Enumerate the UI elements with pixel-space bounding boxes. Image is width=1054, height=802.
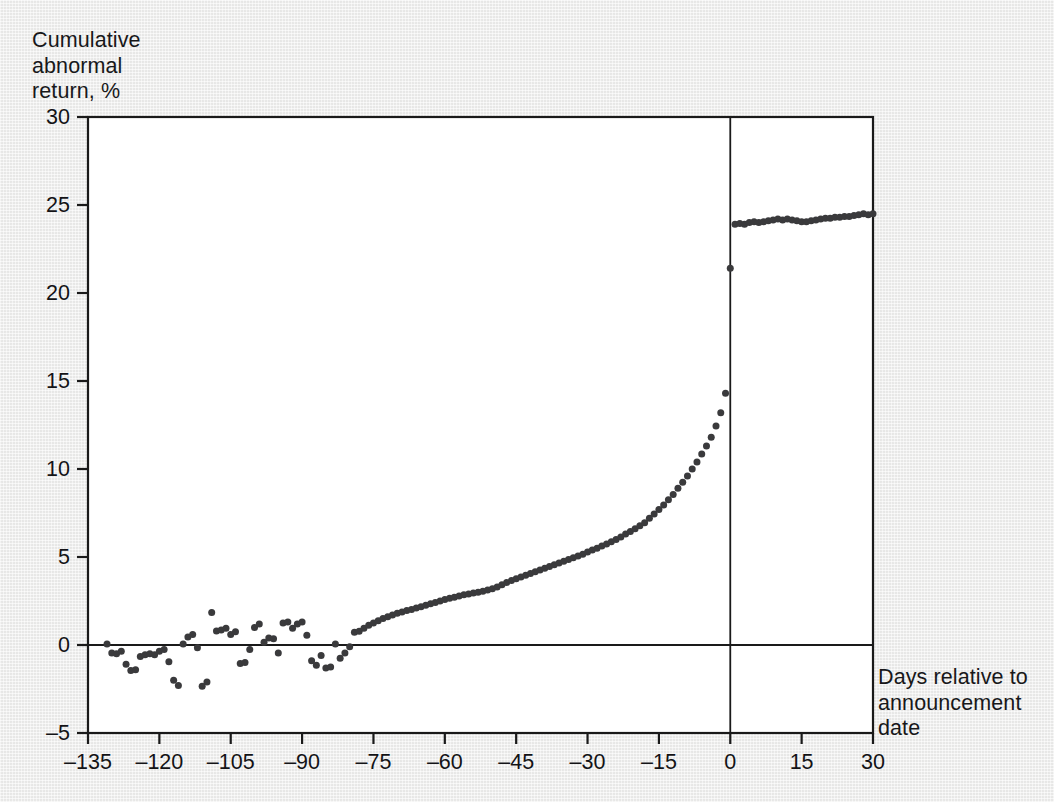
y-axis-title: Cumulative abnormal return, % bbox=[32, 28, 141, 105]
x-tick-label: 15 bbox=[790, 751, 814, 773]
data-point bbox=[180, 641, 187, 648]
data-point bbox=[170, 677, 177, 684]
data-point bbox=[674, 485, 681, 492]
data-point bbox=[708, 434, 715, 441]
y-tick-label: 30 bbox=[46, 106, 70, 128]
data-point bbox=[246, 646, 253, 653]
data-point bbox=[870, 210, 877, 217]
y-tick-label: –5 bbox=[46, 722, 70, 744]
data-point bbox=[332, 641, 339, 648]
data-point bbox=[713, 422, 720, 429]
data-point bbox=[270, 635, 277, 642]
data-point bbox=[165, 658, 172, 665]
x-tick-label: –120 bbox=[135, 751, 183, 773]
data-point bbox=[275, 649, 282, 656]
x-tick-label: –90 bbox=[284, 751, 320, 773]
x-tick-label: –60 bbox=[427, 751, 463, 773]
data-point bbox=[703, 443, 710, 450]
y-tick-label: 5 bbox=[58, 546, 70, 568]
data-point bbox=[327, 664, 334, 671]
y-tick-label: 25 bbox=[46, 194, 70, 216]
y-tick-label: 10 bbox=[46, 458, 70, 480]
x-tick-label: –75 bbox=[356, 751, 392, 773]
data-point bbox=[684, 473, 691, 480]
data-point bbox=[346, 643, 353, 650]
data-point bbox=[208, 609, 215, 616]
x-tick-label: 0 bbox=[724, 751, 736, 773]
data-point bbox=[689, 466, 696, 473]
data-point bbox=[722, 390, 729, 397]
x-tick-label: –30 bbox=[570, 751, 606, 773]
data-point bbox=[161, 646, 168, 653]
data-point bbox=[256, 620, 263, 627]
y-tick-label: 15 bbox=[46, 370, 70, 392]
data-point bbox=[118, 648, 125, 655]
data-point bbox=[194, 644, 201, 651]
plot-area-border bbox=[88, 117, 873, 733]
data-point bbox=[203, 678, 210, 685]
data-point bbox=[698, 451, 705, 458]
data-point bbox=[232, 628, 239, 635]
x-tick-label: –105 bbox=[207, 751, 255, 773]
data-point bbox=[222, 625, 229, 632]
data-point bbox=[660, 502, 667, 509]
x-tick-label: 30 bbox=[861, 751, 885, 773]
x-axis-title: Days relative to announcement date bbox=[878, 665, 1028, 742]
data-point bbox=[175, 682, 182, 689]
data-point bbox=[693, 458, 700, 465]
data-point bbox=[299, 619, 306, 626]
data-point bbox=[313, 662, 320, 669]
chart-figure: Cumulative abnormal return, % Days relat… bbox=[0, 0, 1054, 802]
data-point bbox=[337, 655, 344, 662]
y-tick-label: 0 bbox=[58, 634, 70, 656]
x-tick-label: –15 bbox=[641, 751, 677, 773]
data-point bbox=[665, 496, 672, 503]
data-point bbox=[104, 641, 111, 648]
y-tick-label: 20 bbox=[46, 282, 70, 304]
data-point bbox=[717, 409, 724, 416]
data-point bbox=[242, 659, 249, 666]
data-point bbox=[284, 619, 291, 626]
data-point bbox=[303, 632, 310, 639]
data-point bbox=[679, 479, 686, 486]
data-point bbox=[123, 661, 130, 668]
data-point bbox=[670, 491, 677, 498]
data-point bbox=[189, 631, 196, 638]
data-point bbox=[318, 652, 325, 659]
x-tick-label: –135 bbox=[64, 751, 112, 773]
x-tick-label: –45 bbox=[498, 751, 534, 773]
data-point bbox=[341, 649, 348, 656]
plot-frame bbox=[88, 117, 873, 733]
data-point bbox=[727, 265, 734, 272]
data-point bbox=[132, 666, 139, 673]
